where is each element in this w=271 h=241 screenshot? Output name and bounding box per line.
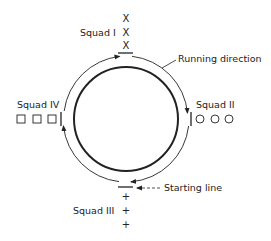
squad-2-runner-circle-icon	[211, 115, 219, 123]
relay-track-diagram: Squad I X X X Running direction Squad IV…	[0, 0, 271, 241]
squad-3-runner-plus-icon: +	[122, 191, 130, 202]
squad-3-label: Squad III	[73, 205, 114, 216]
running-direction-label: Running direction	[178, 53, 262, 64]
squad-2-label: Squad II	[196, 99, 235, 110]
direction-arrow-left-top	[64, 56, 119, 111]
squad-4-runner-square-icon	[48, 115, 56, 123]
squad-4-runner-square-icon	[17, 115, 25, 123]
starting-line-label: Starting line	[164, 182, 222, 193]
squad-3-runner-plus-icon: +	[122, 205, 130, 216]
squad-3-runner-plus-icon: +	[122, 219, 130, 230]
squad-1-runner-x-icon: X	[123, 27, 130, 38]
squad-1-label: Squad I	[80, 27, 116, 38]
inner-track-circle	[74, 67, 178, 171]
direction-arrow-bottom-left	[63, 126, 119, 182]
running-direction-leader	[162, 60, 176, 68]
squad-4-runner-square-icon	[33, 115, 41, 123]
squad-1-runner-x-icon: X	[123, 13, 130, 24]
squad-2-runner-circle-icon	[196, 115, 204, 123]
squad-4-label: Squad IV	[17, 99, 60, 110]
direction-arrow-top-right	[132, 56, 188, 113]
squad-1-runner-x-icon: X	[123, 40, 130, 51]
squad-2-runner-circle-icon	[225, 115, 233, 123]
direction-arrow-right-bottom	[131, 126, 189, 182]
